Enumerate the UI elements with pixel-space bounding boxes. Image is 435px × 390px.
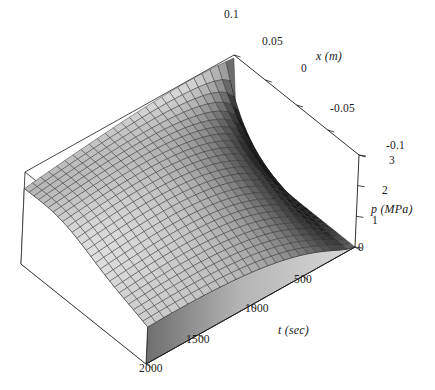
t-tick-label-3: 2000 (139, 363, 163, 375)
x-tick-label-1: 0.05 (262, 36, 283, 48)
t-tick-label-0: 500 (294, 274, 312, 286)
t-tick-label-2: 1500 (186, 334, 210, 346)
surface-plot-figure: 0.1 0.05 0 -0.05 -0.1 500 1000 1500 2000… (0, 0, 435, 390)
p-axis-title: p (MPa) (371, 203, 413, 215)
p-tick-label-3: 0 (358, 242, 364, 254)
p-tick-label-1: 2 (382, 185, 388, 197)
surface-mesh (21, 58, 355, 364)
x-tick-label-2: 0 (301, 63, 307, 75)
x-axis-title: x (m) (316, 50, 342, 62)
p-axis-line (355, 155, 359, 247)
p-tick-label-2: 1 (372, 215, 378, 227)
x-tick-label-3: -0.05 (330, 103, 355, 115)
x-tick-label-4: -0.1 (386, 140, 405, 152)
p-tick-mark-3 (359, 155, 366, 156)
x-tick-label-0: 0.1 (224, 9, 239, 21)
t-tick-label-1: 1000 (245, 303, 269, 315)
p-tick-mark-1 (356, 216, 363, 217)
t-axis-title: t (sec) (278, 324, 309, 336)
p-tick-label-0: 3 (389, 155, 395, 167)
p-tick-mark-2 (358, 186, 365, 187)
surface-plot-canvas (0, 0, 435, 390)
